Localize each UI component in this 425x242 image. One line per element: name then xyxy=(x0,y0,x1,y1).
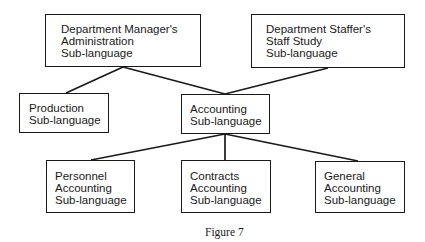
node-label-line: Department Staffer's xyxy=(266,23,371,35)
node-personnel-accounting: Personnel Accounting Sub-language xyxy=(46,160,135,213)
node-label-line: Sub-language xyxy=(55,194,127,206)
edge-accounting-personnel xyxy=(91,134,225,160)
node-label-line: Sub-language xyxy=(324,194,396,206)
edge-staffer-accounting xyxy=(225,68,328,94)
node-manager-administration: Department Manager's Administration Sub-… xyxy=(45,14,201,67)
edge-accounting-general xyxy=(225,134,358,161)
node-label-line: General xyxy=(324,170,396,182)
node-label-line: Department Manager's xyxy=(61,23,178,35)
node-label-line: Accounting xyxy=(55,182,127,194)
node-general-accounting: General Accounting Sub-language xyxy=(315,161,405,213)
node-label-line: Contracts xyxy=(190,170,262,182)
node-label-line: Production xyxy=(29,102,101,114)
node-contracts-accounting: Contracts Accounting Sub-language xyxy=(181,160,271,213)
node-label-line: Accounting xyxy=(190,182,262,194)
node-label-line: Sub-language xyxy=(190,194,262,206)
node-production: Production Sub-language xyxy=(19,93,109,133)
figure-caption: Figure 7 xyxy=(205,226,244,238)
node-label-line: Sub-language xyxy=(190,115,262,127)
node-accounting: Accounting Sub-language xyxy=(181,94,270,134)
edge-manager-accounting xyxy=(123,67,225,94)
node-label-line: Accounting xyxy=(190,103,262,115)
node-label-line: Sub-language xyxy=(29,114,101,126)
node-label-line: Personnel xyxy=(55,170,127,182)
node-label-line: Sub-language xyxy=(61,47,178,59)
figure-7-diagram: Department Manager's Administration Sub-… xyxy=(0,0,425,242)
node-label-line: Sub-language xyxy=(266,47,371,59)
node-label-line: Accounting xyxy=(324,182,396,194)
node-staffer-staff-study: Department Staffer's Staff Study Sub-lan… xyxy=(251,14,405,68)
node-label-line: Staff Study xyxy=(266,35,371,47)
edge-manager-production xyxy=(66,67,123,93)
node-label-line: Administration xyxy=(61,35,178,47)
